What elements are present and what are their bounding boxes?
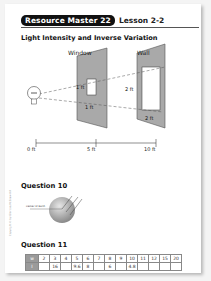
wall-opening xyxy=(142,67,160,110)
table-cell xyxy=(138,263,149,271)
table-cell: 20 xyxy=(171,255,182,263)
question-11-heading: Question 11 xyxy=(21,241,67,249)
copyright-side-text: Copyright © by Glencoe/McGraw-Hill xyxy=(9,190,12,236)
window-height-label: 1 ft xyxy=(76,84,84,90)
question-10-heading: Question 10 xyxy=(21,182,67,190)
table-cell: 4 xyxy=(61,255,72,263)
earth-diagram xyxy=(20,190,85,226)
table-row-i: I 16 9.6 8 6 4.8 xyxy=(26,263,182,271)
window-label: Window xyxy=(68,49,92,56)
table-cell xyxy=(39,263,50,271)
table-cell xyxy=(94,263,105,271)
table-cell: 4.8 xyxy=(127,263,138,271)
table-cell: 15 xyxy=(160,255,171,263)
table-cell xyxy=(171,263,182,271)
axis-label-5: 5 ft xyxy=(87,146,95,152)
center-of-earth-label: Center of Earth xyxy=(26,205,45,208)
table-cell: 2 xyxy=(39,255,50,263)
row-label: I xyxy=(26,263,39,271)
table-cell xyxy=(61,263,72,271)
inverse-variation-table: w 2 3 4 5 6 7 8 9 10 11 12 15 20 I 16 9.… xyxy=(25,254,182,271)
table-cell: 6 xyxy=(105,263,116,271)
table-cell xyxy=(116,263,127,271)
axis-label-0: 0 ft xyxy=(27,146,35,152)
wall-label: Wall xyxy=(137,49,150,56)
row-label: w xyxy=(26,255,39,263)
table-cell: 12 xyxy=(149,255,160,263)
table-row-w: w 2 3 4 5 6 7 8 9 10 11 12 15 20 xyxy=(26,255,182,263)
table-cell: 8 xyxy=(105,255,116,263)
table-cell: 9.6 xyxy=(72,263,83,271)
table-cell: 10 xyxy=(127,255,138,263)
table-cell: 5 xyxy=(72,255,83,263)
axis-label-10: 10 ft xyxy=(144,146,156,152)
table-cell xyxy=(149,263,160,271)
table-cell: 7 xyxy=(94,255,105,263)
table-cell: 16 xyxy=(50,263,61,271)
table-cell: 3 xyxy=(50,255,61,263)
light-bulb-icon xyxy=(28,87,41,105)
table-cell: 6 xyxy=(83,255,94,263)
worksheet-page: Resource Master 22 Lesson 2-2 Light Inte… xyxy=(5,4,201,273)
wall-height-label: 2 ft xyxy=(125,86,133,92)
table-cell xyxy=(160,263,171,271)
window-opening xyxy=(87,79,96,95)
table-cell: 8 xyxy=(83,263,94,271)
window-width-label: 1 ft xyxy=(85,104,93,110)
table-cell: 9 xyxy=(116,255,127,263)
wall-width-label: 2 ft xyxy=(145,115,153,121)
table-cell: 11 xyxy=(138,255,149,263)
